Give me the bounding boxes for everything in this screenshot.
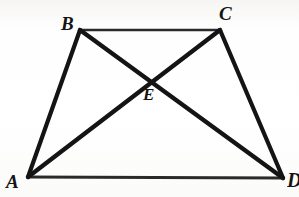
vertex-label-b: B xyxy=(61,14,74,33)
segment-diagonal-AC xyxy=(28,30,220,177)
vertex-label-d: D xyxy=(287,170,299,190)
vertex-label-e: E xyxy=(143,86,154,103)
vertex-label-a: A xyxy=(6,172,19,191)
vertex-label-d-clip: D xyxy=(287,170,299,194)
vertex-label-c: C xyxy=(219,4,232,23)
figure-canvas: A B C E D xyxy=(0,0,299,197)
segment-side-AD xyxy=(28,177,283,178)
